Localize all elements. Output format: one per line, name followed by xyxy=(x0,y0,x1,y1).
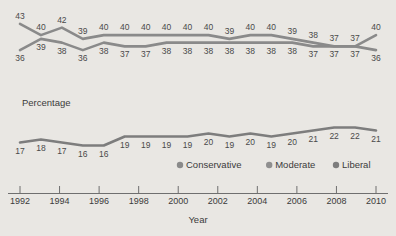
data-label: 40 xyxy=(204,22,214,32)
x-axis-tick-label: 2010 xyxy=(366,196,386,206)
data-label: 19 xyxy=(120,140,130,150)
data-label: 43 xyxy=(15,11,25,21)
data-label: 37 xyxy=(141,49,151,59)
data-label: 16 xyxy=(78,149,88,159)
legend-marker-icon xyxy=(177,162,183,168)
data-label: 38 xyxy=(162,46,172,56)
x-axis-tick-label: 2000 xyxy=(168,196,188,206)
data-label: 37 xyxy=(329,33,339,43)
data-label: 38 xyxy=(308,30,318,40)
data-label: 38 xyxy=(99,46,109,56)
legend-label[interactable]: Conservative xyxy=(186,159,241,170)
data-label: 39 xyxy=(225,26,235,36)
data-label: 39 xyxy=(36,42,46,52)
data-label: 40 xyxy=(246,22,256,32)
data-label: 19 xyxy=(162,140,172,150)
data-label: 21 xyxy=(371,134,381,144)
x-axis-tick-label: 2004 xyxy=(247,196,267,206)
data-label: 20 xyxy=(246,137,256,147)
data-label: 40 xyxy=(183,22,193,32)
data-label: 20 xyxy=(204,137,214,147)
data-label: 36 xyxy=(371,53,381,63)
legend-label[interactable]: Liberal xyxy=(342,159,371,170)
x-axis-tick-label: 1998 xyxy=(129,196,149,206)
data-label: 19 xyxy=(183,140,193,150)
data-label: 22 xyxy=(350,131,360,141)
data-label: 40 xyxy=(99,22,109,32)
legend-marker-icon xyxy=(266,162,272,168)
data-label: 40 xyxy=(120,22,130,32)
data-label: 17 xyxy=(15,146,25,156)
data-label: 40 xyxy=(162,22,172,32)
data-label: 38 xyxy=(183,46,193,56)
legend-marker-icon xyxy=(333,162,339,168)
data-label: 39 xyxy=(78,26,88,36)
data-label: 36 xyxy=(78,53,88,63)
data-label: 21 xyxy=(308,134,318,144)
data-label: 18 xyxy=(36,143,46,153)
x-axis-tick-label: 1996 xyxy=(89,196,109,206)
data-label: 36 xyxy=(15,53,25,63)
line-chart: 4340423940404040404039404039383737403639… xyxy=(0,0,396,236)
x-axis-title: Year xyxy=(188,214,207,225)
data-label: 37 xyxy=(120,49,130,59)
data-label: 17 xyxy=(57,146,67,156)
x-axis-tick-label: 2006 xyxy=(287,196,307,206)
data-label: 38 xyxy=(246,46,256,56)
x-axis-tick-label: 1994 xyxy=(50,196,70,206)
data-label: 37 xyxy=(329,49,339,59)
data-label: 19 xyxy=(225,140,235,150)
x-axis-tick-label: 2002 xyxy=(208,196,228,206)
chart-container: 4340423940404040404039404039383737403639… xyxy=(0,0,396,236)
x-axis-tick-label: 2008 xyxy=(326,196,346,206)
data-label: 42 xyxy=(57,15,67,25)
data-label: 37 xyxy=(308,49,318,59)
data-label: 19 xyxy=(267,140,277,150)
x-axis-tick-label: 1992 xyxy=(10,196,30,206)
data-label: 19 xyxy=(141,140,151,150)
data-label: 40 xyxy=(141,22,151,32)
data-label: 37 xyxy=(350,33,360,43)
data-label: 38 xyxy=(204,46,214,56)
data-label: 40 xyxy=(267,22,277,32)
data-label: 40 xyxy=(36,22,46,32)
data-label: 38 xyxy=(267,46,277,56)
data-label: 20 xyxy=(288,137,298,147)
y-axis-title: Percentage xyxy=(22,97,71,108)
data-label: 37 xyxy=(350,49,360,59)
data-label: 38 xyxy=(225,46,235,56)
data-label: 38 xyxy=(288,46,298,56)
data-label: 22 xyxy=(329,131,339,141)
data-label: 16 xyxy=(99,149,109,159)
data-label: 39 xyxy=(288,26,298,36)
data-label: 40 xyxy=(371,22,381,32)
data-label: 38 xyxy=(57,46,67,56)
legend-label[interactable]: Moderate xyxy=(275,159,315,170)
